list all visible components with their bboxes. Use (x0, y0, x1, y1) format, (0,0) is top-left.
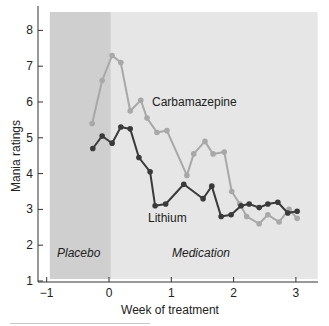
data-point-carbamazepine (109, 53, 115, 59)
data-point-carbamazepine (265, 212, 271, 218)
data-point-lithium (127, 126, 133, 132)
data-point-carbamazepine (276, 219, 282, 225)
bottom-rule-divider (10, 323, 150, 324)
series-label-lithium: Lithium (148, 211, 187, 225)
y-tick-label: 1 (26, 274, 33, 288)
data-point-carbamazepine (154, 130, 160, 136)
x-axis-title: Week of treatment (121, 303, 219, 317)
data-point-lithium (285, 210, 291, 216)
x-tick-label: −1 (40, 286, 54, 300)
y-tick-label: 2 (26, 238, 33, 252)
data-point-carbamazepine (294, 216, 300, 222)
y-tick-label: 8 (26, 23, 33, 37)
data-point-carbamazepine (138, 97, 144, 103)
data-point-carbamazepine (191, 151, 197, 157)
data-point-lithium (256, 205, 262, 211)
y-axis-title: Mania ratings (9, 120, 23, 192)
data-point-lithium (118, 124, 124, 130)
y-tick-label: 3 (26, 202, 33, 216)
data-point-carbamazepine (229, 189, 235, 195)
y-tick-label: 7 (26, 59, 33, 73)
region-placebo (50, 12, 111, 279)
data-point-carbamazepine (89, 121, 95, 127)
data-point-lithium (238, 203, 244, 209)
data-point-lithium (265, 201, 271, 207)
data-point-lithium (228, 212, 234, 218)
x-tick-label: 3 (293, 286, 300, 300)
data-point-carbamazepine (118, 60, 124, 66)
region-label-medication: Medication (172, 246, 230, 260)
data-point-lithium (200, 196, 206, 202)
data-point-lithium (246, 201, 252, 207)
data-point-carbamazepine (221, 149, 227, 155)
data-point-carbamazepine (99, 78, 105, 84)
data-point-lithium (181, 182, 187, 188)
data-point-lithium (163, 201, 169, 207)
data-point-lithium (152, 203, 158, 209)
data-point-lithium (109, 140, 115, 146)
data-point-carbamazepine (202, 139, 208, 145)
data-point-lithium (275, 199, 281, 205)
mania-ratings-chart: 12345678−10123 Carbamazepine Lithium Pla… (0, 0, 329, 326)
region-medication (111, 12, 318, 279)
data-point-lithium (218, 214, 224, 220)
y-tick-label: 6 (26, 95, 33, 109)
y-tick-label: 5 (26, 131, 33, 145)
data-point-carbamazepine (184, 173, 190, 179)
data-point-carbamazepine (256, 221, 262, 227)
data-point-carbamazepine (210, 151, 216, 157)
series-label-carbamazepine: Carbamazepine (152, 95, 237, 109)
x-tick-label: 2 (230, 286, 237, 300)
data-point-carbamazepine (244, 214, 250, 220)
data-point-carbamazepine (144, 115, 150, 121)
data-point-lithium (136, 155, 142, 161)
data-point-carbamazepine (164, 128, 170, 134)
y-tick-label: 4 (26, 167, 33, 181)
data-point-lithium (90, 146, 96, 152)
data-point-carbamazepine (127, 108, 133, 114)
x-tick-label: 1 (168, 286, 175, 300)
data-point-lithium (294, 208, 300, 214)
treatment-phase-regions (50, 12, 318, 279)
data-point-lithium (147, 169, 153, 175)
region-label-placebo: Placebo (57, 246, 101, 260)
data-point-lithium (99, 133, 105, 139)
x-tick-label: 0 (106, 286, 113, 300)
data-point-lithium (209, 183, 215, 189)
